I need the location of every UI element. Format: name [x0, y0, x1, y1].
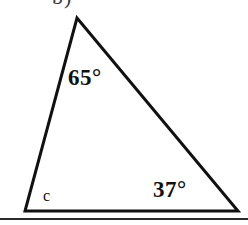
- triangle-shape: [0, 0, 248, 225]
- geometry-figure: b) 65° 37° c: [0, 0, 248, 225]
- angle-label-bottom-left: c: [43, 188, 50, 204]
- triangle-outline: [25, 18, 238, 211]
- angle-label-apex: 65°: [68, 66, 102, 89]
- page-divider-line: [0, 218, 248, 220]
- angle-label-bottom-right: 37°: [153, 178, 187, 201]
